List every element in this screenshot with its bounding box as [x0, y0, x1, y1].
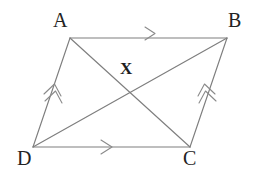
edge-bc — [190, 38, 227, 147]
tick-cb-double-arrow-1 — [198, 84, 215, 96]
vertex-label-d: D — [17, 148, 31, 168]
geometry-diagram: A B C D X — [0, 0, 260, 172]
vertex-label-a: A — [53, 10, 67, 30]
vertex-label-b: B — [228, 10, 241, 30]
vertex-label-c: C — [183, 148, 196, 168]
intersection-label-x: X — [120, 60, 132, 77]
diagonal-bd — [33, 38, 227, 147]
edge-da — [33, 38, 70, 147]
parallelogram-figure — [0, 0, 260, 172]
